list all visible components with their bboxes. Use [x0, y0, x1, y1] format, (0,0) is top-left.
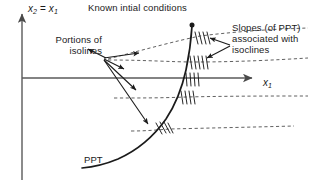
pointer-arrow-1: [104, 53, 139, 58]
portions-line-2: isolines: [24, 45, 102, 56]
slopes-pointer-arrows: [207, 38, 230, 58]
hatch-group-4: [181, 91, 195, 104]
phase-plane-diagram: x2 = x1 Known intial conditions Portions…: [0, 0, 317, 193]
y-axis-label-sub1: 1: [54, 8, 58, 15]
ppt-curve-label: PPT: [84, 154, 103, 165]
known-initial-conditions-label: Known intial conditions: [88, 2, 187, 13]
portions-line-1: Portions of: [24, 34, 102, 45]
hatch-group-1: [195, 32, 210, 44]
isoline-2: [108, 58, 308, 62]
x-axis-label: x1: [263, 77, 272, 89]
hatch-group-3: [186, 73, 199, 86]
y-axis-label-sub2: 2: [33, 8, 37, 15]
portions-of-isolines-label: Portions of isolines: [24, 34, 102, 56]
isoline-3: [114, 96, 308, 98]
y-axis-label-equals: =: [40, 3, 46, 14]
x-axis-label-sub: 1: [268, 82, 272, 89]
slopes-of-ppt-label: Slopes (of PPT) associated with isocline…: [232, 22, 316, 55]
hatch-group-5: [156, 122, 173, 134]
isoline-4: [131, 126, 294, 131]
slopes-arrow-2: [207, 46, 230, 58]
slopes-arrow-1: [210, 38, 230, 45]
slopes-line-2: associated with: [232, 33, 316, 44]
pointer-arrow-3: [104, 60, 136, 90]
hatch-group-2: [190, 56, 208, 69]
pointer-arrow-4: [104, 60, 148, 124]
slopes-line-3: isoclines: [232, 44, 316, 55]
slopes-line-1: Slopes (of PPT): [232, 22, 316, 33]
y-axis-label: x2 = x1: [28, 3, 58, 15]
initial-condition-dot: [190, 23, 195, 28]
